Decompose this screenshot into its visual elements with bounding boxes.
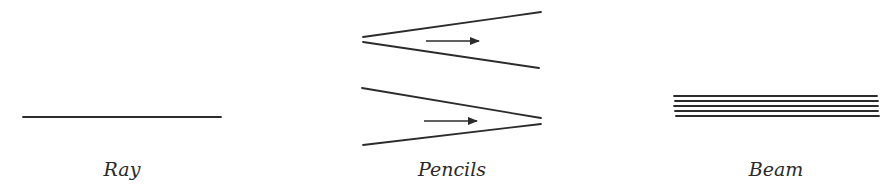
beam-figure <box>674 96 879 116</box>
pencils-line <box>363 42 539 68</box>
ray-caption: Ray <box>104 158 141 180</box>
pencils-figure <box>362 12 541 145</box>
pencils-line <box>362 88 541 118</box>
pencils-caption: Pencils <box>418 158 486 180</box>
pencils-line <box>363 124 541 145</box>
pencils-line <box>363 12 541 37</box>
beam-caption: Beam <box>749 158 804 180</box>
